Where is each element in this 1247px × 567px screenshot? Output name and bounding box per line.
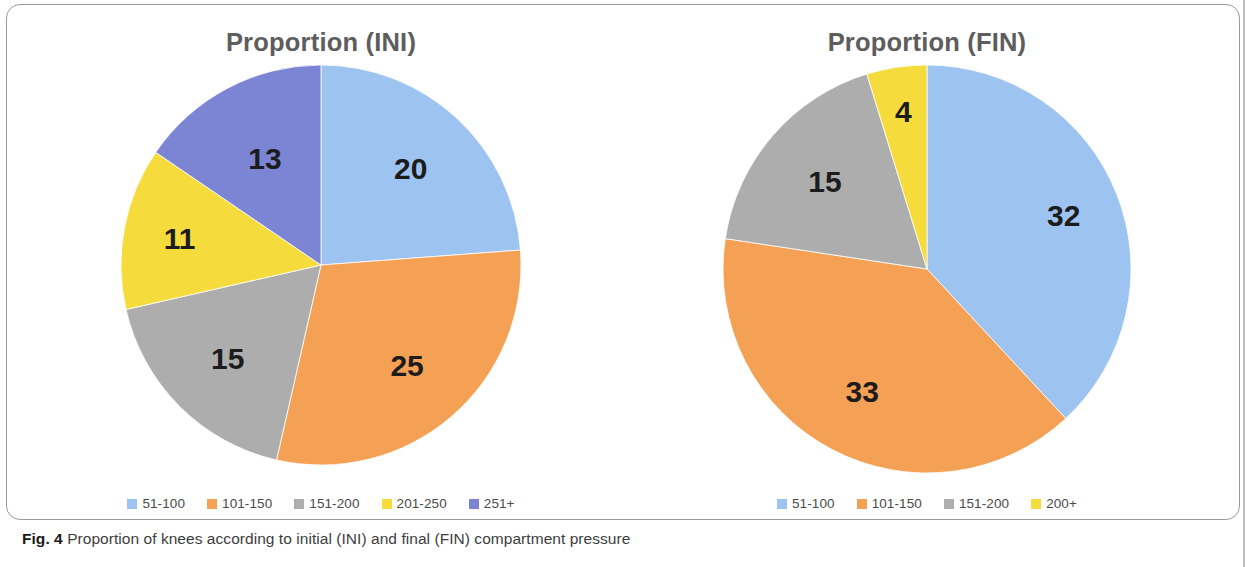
legend-swatch-icon [294, 499, 304, 509]
legend-swatch-icon [1031, 499, 1041, 509]
pie-slice-value-label: 4 [895, 95, 912, 128]
pie-slice-value-label: 20 [394, 152, 427, 185]
legend-item-label: 51-100 [792, 496, 835, 511]
chart-panel-fin: Proportion (FIN) 3233154 51-100101-15015… [627, 13, 1227, 517]
chart-title-fin: Proportion (FIN) [627, 25, 1227, 59]
pie-slice-value-label: 11 [164, 222, 196, 255]
legend-item-label: 151-200 [959, 496, 1009, 511]
pie-chart-ini: 2025151113 [119, 63, 523, 467]
legend-item-label: 201-250 [397, 496, 447, 511]
legend-swatch-icon [469, 499, 479, 509]
pie-slice-value-label: 13 [248, 142, 281, 175]
legend-item: 151-200 [944, 496, 1009, 511]
legend-item: 101-150 [857, 496, 922, 511]
pie-slice-value-label: 15 [808, 165, 841, 198]
figure-caption-text: Proportion of knees according to initial… [67, 530, 630, 547]
legend-swatch-icon [127, 499, 137, 509]
legend-item-label: 200+ [1046, 496, 1077, 511]
pie-slice-value-label: 33 [846, 375, 879, 408]
pie-chart-fin: 3233154 [721, 63, 1133, 475]
legend-item: 101-150 [207, 496, 272, 511]
legend-swatch-icon [207, 499, 217, 509]
chart-panel-ini: Proportion (INI) 2025151113 51-100101-15… [21, 13, 621, 517]
legend-item: 51-100 [127, 496, 185, 511]
pie-chart-ini-svg: 2025151113 [119, 63, 523, 467]
pie-slice-value-label: 25 [390, 349, 423, 382]
legend-item: 51-100 [777, 496, 835, 511]
pie-slice-value-label: 32 [1047, 199, 1080, 232]
legend-swatch-icon [382, 499, 392, 509]
legend-item-label: 101-150 [222, 496, 272, 511]
legend-swatch-icon [944, 499, 954, 509]
figure-frame: Proportion (INI) 2025151113 51-100101-15… [6, 4, 1240, 520]
pie-chart-fin-svg: 3233154 [721, 63, 1133, 475]
legend-swatch-icon [777, 499, 787, 509]
legend-item: 200+ [1031, 496, 1077, 511]
legend-swatch-icon [857, 499, 867, 509]
legend-item: 251+ [469, 496, 515, 511]
figure-caption: Fig. 4 Proportion of knees according to … [22, 530, 1202, 548]
legend-fin: 51-100101-150151-200200+ [627, 496, 1227, 511]
legend-item-label: 101-150 [872, 496, 922, 511]
legend-item: 201-250 [382, 496, 447, 511]
pie-slice-value-label: 15 [211, 342, 244, 375]
legend-item-label: 251+ [484, 496, 515, 511]
figure-caption-label: Fig. 4 [22, 530, 63, 547]
legend-ini: 51-100101-150151-200201-250251+ [21, 496, 621, 511]
legend-item: 151-200 [294, 496, 359, 511]
legend-item-label: 151-200 [309, 496, 359, 511]
chart-title-ini: Proportion (INI) [21, 25, 621, 59]
legend-item-label: 51-100 [142, 496, 185, 511]
page-edge-rule [1243, 0, 1245, 567]
